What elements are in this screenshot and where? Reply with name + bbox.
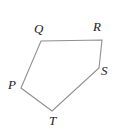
pentagon-path bbox=[21, 40, 102, 111]
vertex-label-s: S bbox=[101, 64, 108, 77]
vertex-label-q: Q bbox=[34, 22, 43, 35]
vertex-label-t: T bbox=[49, 114, 56, 127]
vertex-label-p: P bbox=[8, 78, 16, 91]
vertex-label-r: R bbox=[93, 20, 101, 33]
pentagon-figure: P Q R S T bbox=[0, 0, 119, 135]
